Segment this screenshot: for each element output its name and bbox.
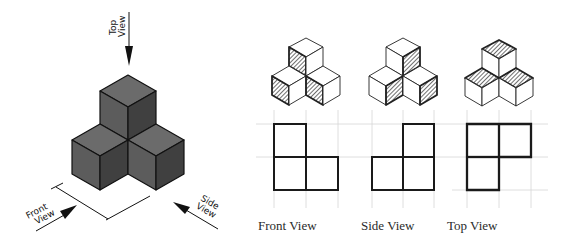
diagram-canvas: Top View Front View Side View <box>0 0 569 244</box>
top-view-sketch <box>465 40 533 106</box>
top-view-projection <box>467 124 531 190</box>
side-view-sketch <box>369 38 437 105</box>
top-view-arrow: Top View <box>108 12 133 66</box>
front-view-arrow: Front View <box>24 200 77 231</box>
front-view-sketch <box>272 38 340 105</box>
front-view-label: Front View <box>258 218 317 234</box>
front-view-projection <box>274 124 338 190</box>
top-view-label: Top View <box>447 218 497 234</box>
top-view-arrow-label-2: View <box>117 16 127 37</box>
side-view-label: Side View <box>361 218 415 234</box>
side-view-projection <box>372 124 434 190</box>
isometric-solid <box>72 75 184 190</box>
side-view-arrow: Side View <box>173 193 222 229</box>
